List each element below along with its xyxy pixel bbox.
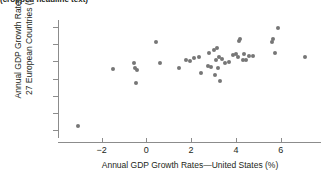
- cropped-top-caption: (cropped headline text): [0, 0, 324, 5]
- x-axis-tick: [146, 138, 147, 143]
- x-axis-tick: [191, 138, 192, 143]
- data-point: [242, 52, 246, 56]
- data-point: [177, 66, 181, 70]
- x-axis-tick: [281, 138, 282, 143]
- data-point: [218, 79, 222, 83]
- y-axis-title-line-2: 27 European Countries (%): [23, 0, 34, 109]
- data-point: [227, 60, 231, 64]
- x-axis-tick-label: 6: [266, 145, 296, 155]
- data-point: [207, 51, 211, 55]
- data-point: [158, 61, 162, 65]
- x-axis-tick: [236, 138, 237, 143]
- data-point: [244, 58, 248, 62]
- x-axis-tick-label: 0: [131, 145, 161, 155]
- data-point: [184, 58, 188, 62]
- x-axis-tick-label: −2: [87, 145, 117, 155]
- data-point: [132, 61, 136, 65]
- x-axis-title: Annual GDP Growth Rates—United States (%…: [59, 160, 321, 170]
- plot-data-area: [59, 20, 321, 137]
- x-axis-tick-label: 4: [221, 145, 251, 155]
- scatter-plot-figure: (cropped headline text) 6420−2−4−6 −2024…: [0, 0, 324, 181]
- y-axis-title: Annual GDP Growth Rates— 27 European Cou…: [13, 0, 34, 109]
- data-point: [223, 61, 227, 65]
- x-axis-tick: [102, 138, 103, 143]
- data-point: [76, 124, 80, 128]
- x-axis-tick-label: 2: [176, 145, 206, 155]
- y-axis-title-line-1: Annual GDP Growth Rates—: [13, 0, 24, 109]
- data-point: [197, 55, 201, 59]
- data-point: [215, 46, 219, 50]
- data-point: [251, 54, 255, 58]
